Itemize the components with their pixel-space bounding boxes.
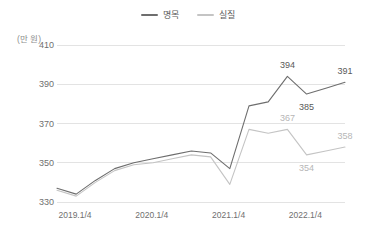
point-value-label: 391 [337,66,352,76]
data-point-labels: 394385391367354358 [0,0,376,229]
point-value-label: 354 [299,163,314,173]
point-value-label: 358 [337,131,352,141]
point-value-label: 367 [280,113,295,123]
point-value-label: 385 [299,102,314,112]
line-chart: 명목 실질 (만 원) 410390370350330 2019.1/42020… [0,0,376,229]
point-value-label: 394 [280,60,295,70]
